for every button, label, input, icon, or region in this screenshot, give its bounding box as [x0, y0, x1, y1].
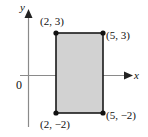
coordinate-figure: y x 0 (2, 3) (5, 3) (2, −2) (5, −2) — [0, 0, 148, 137]
vertex-label-top-right: (5, 3) — [106, 30, 130, 41]
vertex-dot-bottom-left — [53, 110, 58, 115]
vertex-dot-top-left — [53, 30, 58, 35]
y-axis-label: y — [20, 2, 25, 13]
y-axis-arrow-icon — [25, 9, 33, 18]
x-axis-label: x — [134, 70, 139, 81]
origin-label: 0 — [16, 79, 22, 91]
vertex-label-bottom-left: (2, −2) — [40, 119, 70, 130]
x-axis-arrow-icon — [124, 72, 133, 80]
vertex-label-top-left: (2, 3) — [40, 16, 64, 27]
vertex-dot-bottom-right — [100, 110, 105, 115]
vertex-label-bottom-right: (5, −2) — [106, 110, 136, 121]
vertex-dot-top-right — [100, 30, 105, 35]
rectangle-region — [56, 33, 103, 113]
